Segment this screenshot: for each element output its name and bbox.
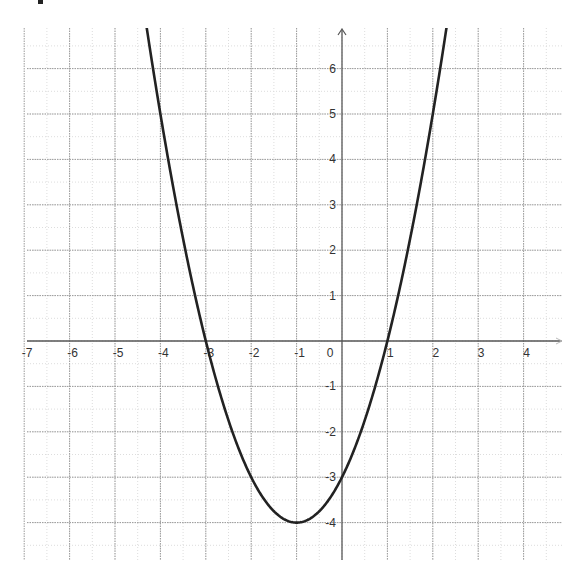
x-tick-label: 4 bbox=[523, 346, 530, 360]
x-tick-label: -6 bbox=[67, 346, 78, 360]
minor-grid bbox=[27, 28, 562, 560]
x-tick-label: -4 bbox=[158, 346, 169, 360]
x-tick-label: -1 bbox=[294, 346, 305, 360]
x-tick-label: 1 bbox=[387, 346, 394, 360]
x-tick-label: -2 bbox=[249, 346, 260, 360]
x-tick-label: -7 bbox=[22, 346, 33, 360]
y-tick-label: 6 bbox=[329, 62, 336, 76]
y-tick-label: 3 bbox=[329, 198, 336, 212]
major-grid bbox=[24, 28, 562, 560]
x-tick-label: 0 bbox=[327, 346, 334, 360]
y-tick-label: 2 bbox=[329, 243, 336, 257]
y-tick-label: 4 bbox=[329, 152, 336, 166]
y-tick-label: -1 bbox=[325, 379, 336, 393]
y-tick-label: -3 bbox=[325, 470, 336, 484]
axes bbox=[27, 29, 562, 560]
x-tick-label: 3 bbox=[478, 346, 485, 360]
x-tick-label: 2 bbox=[432, 346, 439, 360]
y-tick-label: -4 bbox=[325, 516, 336, 530]
y-tick-label: -2 bbox=[325, 425, 336, 439]
y-axis-tick-labels: -4-3-2-1123456 bbox=[325, 62, 336, 530]
x-axis-tick-labels: -7-6-5-4-3-2-101234 bbox=[22, 346, 530, 360]
y-tick-label: 5 bbox=[329, 107, 336, 121]
x-tick-label: -5 bbox=[113, 346, 124, 360]
y-tick-label: 1 bbox=[329, 289, 336, 303]
function-plot: -7-6-5-4-3-2-101234 -4-3-2-1123456 bbox=[0, 0, 584, 577]
